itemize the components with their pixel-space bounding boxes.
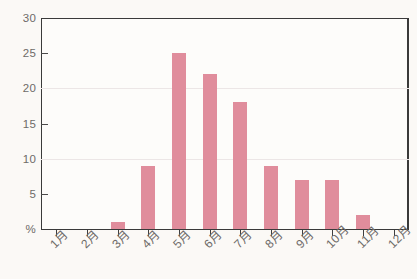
y-axis-tick-label: 5	[8, 188, 36, 200]
y-axis-tick-label: 15	[8, 118, 36, 130]
bar	[295, 180, 309, 229]
bar	[233, 102, 247, 229]
bar	[172, 53, 186, 229]
bars-group	[41, 18, 409, 229]
bar-chart: %51015202530 1月2月3月4月5月6月7月8月9月10月11月12月	[0, 0, 417, 279]
y-axis-tick-label: %	[8, 223, 36, 235]
bar	[264, 166, 278, 229]
y-axis-tick-label: 25	[8, 47, 36, 59]
bar	[203, 74, 217, 229]
bar	[141, 166, 155, 229]
y-axis-tick-label: 20	[8, 82, 36, 94]
y-axis-tick-label: 10	[8, 153, 36, 165]
y-axis-tick-label: 30	[8, 12, 36, 24]
